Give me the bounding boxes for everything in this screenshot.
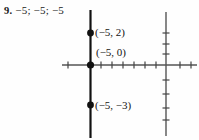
point-marker-a — [87, 30, 94, 37]
figure-panel: 9.−5; −5; −5 — [0, 0, 199, 140]
point-label-b: (−5, 0) — [96, 46, 126, 58]
point-marker-c — [87, 102, 94, 109]
point-label-c: (−5, −3) — [95, 99, 131, 111]
point-label-a: (−5, 2) — [95, 26, 125, 38]
point-marker-b — [87, 61, 94, 68]
coordinate-plane-graph — [0, 0, 199, 140]
